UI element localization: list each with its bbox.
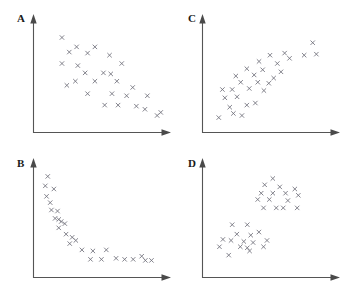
data-point-marker [271,176,275,180]
data-point-marker [122,257,126,261]
data-point-marker [76,63,80,67]
data-point-marker [251,240,255,244]
panel-d-plot [175,152,349,304]
data-point-marker [256,80,260,84]
data-point-marker [249,233,253,237]
data-point-marker [220,87,224,91]
data-point-marker [282,51,286,55]
data-point-marker [93,45,97,49]
panel-d-points [217,176,300,257]
data-point-marker [234,74,238,78]
data-point-marker [49,208,53,212]
data-point-marker [73,79,77,83]
data-point-marker [287,56,291,60]
data-point-marker [46,174,50,178]
data-point-marker [64,232,68,236]
data-point-marker [143,258,147,262]
data-point-marker [91,249,95,253]
data-point-marker [257,230,261,234]
data-point-marker [60,61,64,65]
data-point-marker [268,53,272,57]
data-point-marker [217,245,221,249]
data-point-marker [279,70,283,74]
data-point-marker [235,95,239,99]
data-point-marker [247,86,251,90]
data-point-marker [281,206,285,210]
data-point-marker [262,183,266,187]
data-point-marker [230,87,234,91]
data-point-marker [131,85,135,89]
x-axis-arrowhead-icon [162,129,172,135]
data-point-marker [88,257,92,261]
panel-c: C [175,0,349,152]
data-point-marker [44,194,48,198]
data-point-marker [221,237,225,241]
data-point-marker [145,94,149,98]
data-point-marker [227,253,231,257]
data-point-marker [53,216,57,220]
panel-c-axes [199,14,340,136]
data-point-marker [120,61,124,65]
data-point-marker [259,191,263,195]
data-point-marker [261,245,265,249]
data-point-marker [271,76,275,80]
data-point-marker [93,79,97,83]
data-point-marker [242,239,246,243]
panel-d: D [175,152,349,304]
x-axis-arrowhead-icon [331,129,341,135]
data-point-marker [57,226,61,230]
panel-a-points [60,35,163,117]
x-axis-arrowhead-icon [162,274,172,280]
data-point-marker [261,206,265,210]
data-point-marker [257,59,261,63]
panel-d-axes [199,158,340,281]
data-point-marker [83,71,87,75]
data-point-marker [275,61,279,65]
data-point-marker [267,197,271,201]
panel-a-plot [0,0,175,152]
data-point-marker [149,258,153,262]
data-point-marker [115,79,119,83]
data-point-marker [245,67,249,71]
data-point-marker [102,103,106,107]
data-point-marker [52,187,56,191]
data-point-marker [311,41,315,45]
data-point-marker [235,232,239,236]
data-point-marker [74,45,78,49]
data-point-marker [85,51,89,55]
data-point-marker [240,113,244,117]
data-point-marker [283,191,287,195]
x-axis-arrowhead-icon [331,274,341,280]
data-point-marker [109,72,113,76]
data-point-marker [256,197,260,201]
data-point-marker [217,115,221,119]
panel-b-points [43,174,154,262]
data-point-marker [104,248,108,252]
data-point-marker [245,103,249,107]
panel-a-axes [30,14,171,136]
data-point-marker [99,257,103,261]
data-point-marker [245,246,249,250]
panel-c-points [217,41,319,120]
data-point-marker [252,73,256,77]
data-point-marker [245,223,249,227]
data-point-marker [260,68,264,72]
data-point-marker [296,193,300,197]
data-point-marker [74,238,78,242]
data-point-marker [114,256,118,260]
y-axis-arrowhead-icon [199,158,205,168]
y-axis-arrowhead-icon [30,158,36,168]
panel-b: B [0,152,175,304]
y-axis-arrowhead-icon [199,14,205,24]
data-point-marker [247,249,251,253]
data-point-marker [286,198,290,202]
data-point-marker [230,223,234,227]
panel-b-plot [0,152,175,304]
data-point-marker [239,80,243,84]
data-point-marker [271,191,275,195]
data-point-marker [314,52,318,56]
data-point-marker [107,53,111,57]
data-point-marker [265,238,269,242]
data-point-marker [278,185,282,189]
panel-a: A [0,0,175,152]
